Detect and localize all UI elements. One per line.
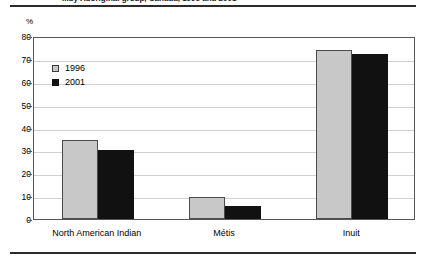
bar-2001-north-american-indian (98, 150, 134, 219)
bar-1996-métis (189, 197, 225, 219)
bar-series-container (34, 38, 414, 219)
y-axis-unit-label: % (26, 18, 33, 26)
y-axis-tick-mark (27, 129, 32, 130)
footer-divider (10, 252, 416, 254)
plot-area: 19962001 (33, 37, 415, 220)
legend-item-1996: 1996 (52, 61, 85, 75)
y-axis-tick-mark (27, 106, 32, 107)
bar-1996-inuit (316, 50, 352, 219)
x-axis-category-labels: North American IndianMétisInuit (33, 228, 415, 242)
gray-square-icon (52, 65, 59, 72)
title-divider (10, 5, 416, 7)
y-axis-tick-mark (27, 151, 32, 152)
y-axis-tick-mark (27, 83, 32, 84)
chart-legend: 19962001 (52, 61, 85, 89)
black-square-icon (52, 79, 59, 86)
y-axis-tick-mark (27, 37, 32, 38)
y-axis-tick-mark (27, 60, 32, 61)
y-axis-tick-mark (27, 197, 32, 198)
chart-title: ...by Aboriginal group, Canada, 1996 and… (62, 0, 236, 3)
bar-1996-north-american-indian (62, 140, 98, 219)
legend-label: 1996 (65, 62, 85, 75)
x-axis-label: North American Indian (52, 228, 141, 239)
bar-2001-inuit (352, 54, 388, 219)
y-axis-tick-mark (27, 220, 32, 221)
chart-figure: ...by Aboriginal group, Canada, 1996 and… (0, 0, 424, 263)
bar-2001-métis (225, 206, 261, 219)
x-axis-label: Métis (213, 228, 235, 239)
y-axis-ticks: 01020304050607080 (0, 37, 31, 220)
legend-label: 2001 (65, 76, 85, 89)
legend-item-2001: 2001 (52, 75, 85, 89)
y-axis-tick-mark (27, 174, 32, 175)
x-axis-label: Inuit (343, 228, 360, 239)
